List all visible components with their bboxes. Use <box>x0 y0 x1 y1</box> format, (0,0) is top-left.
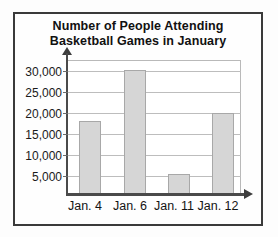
bar-jan-11 <box>168 174 190 194</box>
x-axis-tick-labels: Jan. 4 Jan. 6 Jan. 11 Jan. 12 <box>55 199 260 219</box>
y-tick-label-30000: 30,000 <box>4 66 62 78</box>
y-tick-label-10000: 10,000 <box>4 150 62 162</box>
x-axis-arrow-icon <box>244 189 253 199</box>
y-tick-label-15000: 15,000 <box>4 129 62 141</box>
gridline-25000 <box>68 92 241 93</box>
y-tick-label-20000: 20,000 <box>4 108 62 120</box>
bar-jan-12 <box>212 113 234 194</box>
bar-jan-6 <box>124 70 146 194</box>
bar-chart-figure: Number of People Attending Basketball Ga… <box>0 0 278 237</box>
y-tick-label-25000: 25,000 <box>4 87 62 99</box>
bar-jan-4 <box>79 121 101 195</box>
x-axis-line <box>66 193 246 196</box>
x-tick-label-jan-12: Jan. 12 <box>188 199 248 214</box>
y-axis-tick-labels: 30,000 25,000 20,000 15,000 10,000 5,000 <box>4 0 62 237</box>
plot-area <box>68 60 241 194</box>
y-tick-label-5000: 5,000 <box>4 171 62 183</box>
gridline-30000 <box>68 71 241 72</box>
